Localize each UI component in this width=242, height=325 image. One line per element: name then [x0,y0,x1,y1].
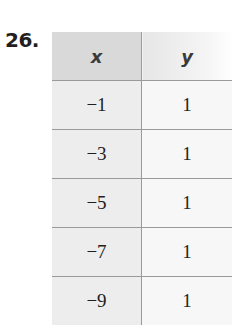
cell-x: −3 [52,130,142,179]
cell-y: 1 [142,81,233,130]
header-x: x [52,32,142,81]
table-row: −1 1 [52,81,232,130]
cell-y: 1 [142,130,233,179]
cell-y: 1 [142,179,233,228]
header-y: y [142,32,233,81]
cell-x: −9 [52,277,142,325]
table-row: −5 1 [52,179,232,228]
table-row: −9 1 [52,277,232,325]
table-row: −7 1 [52,228,232,277]
xy-table: x y −1 1 −3 1 −5 1 −7 1 −9 1 [52,32,232,325]
cell-x: −1 [52,81,142,130]
cell-y: 1 [142,228,233,277]
cell-x: −5 [52,179,142,228]
cell-y: 1 [142,277,233,325]
header-row: x y [52,32,232,81]
table-row: −3 1 [52,130,232,179]
cell-x: −7 [52,228,142,277]
problem-number: 26. [5,28,39,52]
